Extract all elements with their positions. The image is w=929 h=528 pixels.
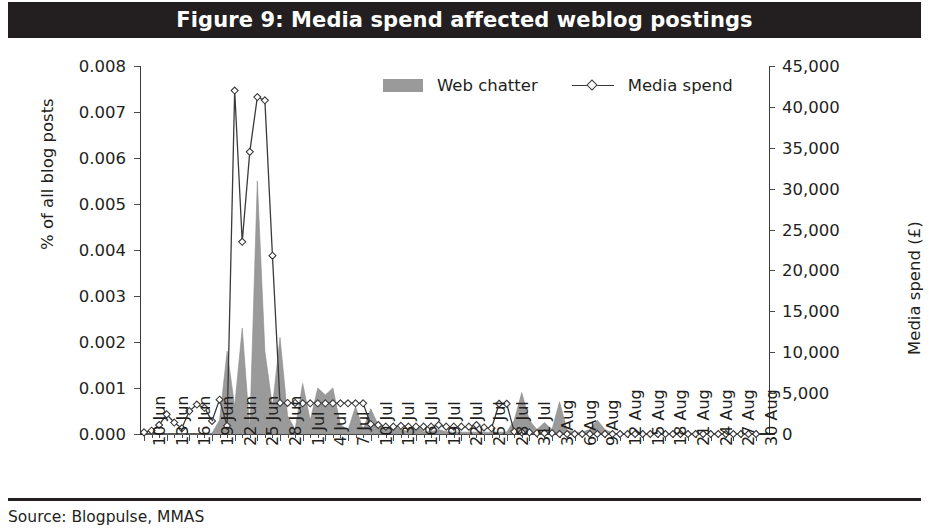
left-tick-label: 0.006	[62, 149, 126, 168]
x-tick-label: 16 Jun	[195, 396, 214, 446]
plot-area	[140, 66, 770, 434]
source-note: Source: Blogpulse, MMAS	[8, 508, 204, 526]
media-spend-line	[144, 91, 756, 434]
right-tick-label: 25,000	[782, 220, 854, 239]
chart-series-layer	[140, 66, 770, 434]
x-tick-label: 1 Jul	[309, 411, 328, 446]
x-tick-label: 25 Jul	[490, 401, 509, 446]
x-tick-label: 13 Jun	[173, 396, 192, 446]
left-tick-label: 0.004	[62, 241, 126, 260]
media-spend-data-point	[307, 400, 314, 407]
x-tick-label: 30 Aug	[762, 389, 781, 446]
x-tick-label: 6 Aug	[581, 399, 600, 446]
left-tick-label: 0.008	[62, 57, 126, 76]
left-tick-label: 0.005	[62, 195, 126, 214]
x-tick-label: 9 Aug	[603, 399, 622, 446]
right-tick-label: 45,000	[782, 57, 854, 76]
media-spend-data-point	[231, 87, 238, 94]
x-tick-label: 15 Aug	[649, 389, 668, 446]
x-tick-label: 25 Jun	[263, 396, 282, 446]
media-spend-data-point	[261, 97, 268, 104]
right-tick-label: 10,000	[782, 343, 854, 362]
media-spend-data-point	[337, 400, 344, 407]
left-tick-label: 0.007	[62, 103, 126, 122]
x-tick-label: 7 Jul	[354, 411, 373, 446]
x-tick-label: 27 Aug	[739, 389, 758, 446]
footer-divider	[8, 498, 921, 501]
media-spend-data-point	[239, 238, 246, 245]
right-axis-title: Media spend (£)	[905, 221, 924, 355]
left-tick-label: 0.002	[62, 333, 126, 352]
x-tick-label: 13 Jul	[399, 401, 418, 446]
media-spend-data-point	[352, 400, 359, 407]
x-tick-label: 4 Jul	[331, 411, 350, 446]
right-tick-label: 40,000	[782, 97, 854, 116]
x-tick-label: 22 Jun	[241, 396, 260, 446]
right-tick-label: 5,000	[782, 384, 854, 403]
media-spend-data-point	[269, 252, 276, 259]
x-tick-label: 24 Aug	[717, 389, 736, 446]
left-tick-label: 0.001	[62, 379, 126, 398]
x-tick-label: 28 Jul	[513, 401, 532, 446]
x-tick-label: 22 Jul	[467, 401, 486, 446]
right-tick-label: 0	[782, 425, 854, 444]
x-tick-label: 19 Jul	[445, 401, 464, 446]
media-spend-data-point	[254, 94, 261, 101]
x-tick-label: 21 Aug	[694, 389, 713, 446]
right-tick-label: 35,000	[782, 138, 854, 157]
media-spend-data-point	[360, 400, 367, 407]
x-tick-label: 3 Aug	[558, 399, 577, 446]
x-tick-label: 18 Aug	[671, 389, 690, 446]
figure-title: Figure 9: Media spend affected weblog po…	[176, 8, 752, 32]
x-tick-label: 10 Jul	[377, 401, 396, 446]
left-tick-mark	[134, 434, 140, 435]
left-axis-title: % of all blog posts	[38, 98, 57, 250]
x-tick-label: 31 Jul	[535, 401, 554, 446]
right-tick-label: 30,000	[782, 179, 854, 198]
media-spend-data-point	[246, 148, 253, 155]
figure-container: Figure 9: Media spend affected weblog po…	[0, 0, 929, 528]
right-tick-label: 15,000	[782, 302, 854, 321]
x-tick-label: 19 Jun	[218, 396, 237, 446]
media-spend-data-point	[141, 429, 148, 436]
x-tick-label: 12 Aug	[626, 389, 645, 446]
x-tick-label: 10 Jun	[150, 396, 169, 446]
media-spend-data-point	[345, 400, 352, 407]
left-tick-label: 0.003	[62, 287, 126, 306]
right-tick-label: 20,000	[782, 261, 854, 280]
figure-title-bar: Figure 9: Media spend affected weblog po…	[8, 2, 921, 38]
left-tick-label: 0.000	[62, 425, 126, 444]
x-tick-label: 16 Jul	[422, 401, 441, 446]
x-tick-label: 28 Jun	[286, 396, 305, 446]
